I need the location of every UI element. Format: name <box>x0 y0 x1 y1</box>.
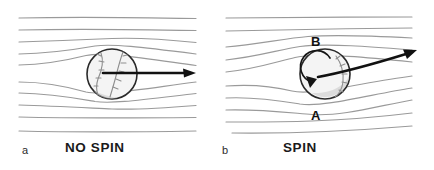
panel-a-letter: a <box>22 144 29 156</box>
ball-with-spin <box>300 49 350 99</box>
point-label-b: B <box>311 34 320 49</box>
panel-a-caption: NO SPIN <box>65 140 125 155</box>
panel-b-caption: SPIN <box>283 140 317 155</box>
point-label-a: A <box>311 108 321 123</box>
magnus-effect-figure: a NO SPIN <box>0 0 434 170</box>
panel-b-letter: b <box>222 144 228 156</box>
